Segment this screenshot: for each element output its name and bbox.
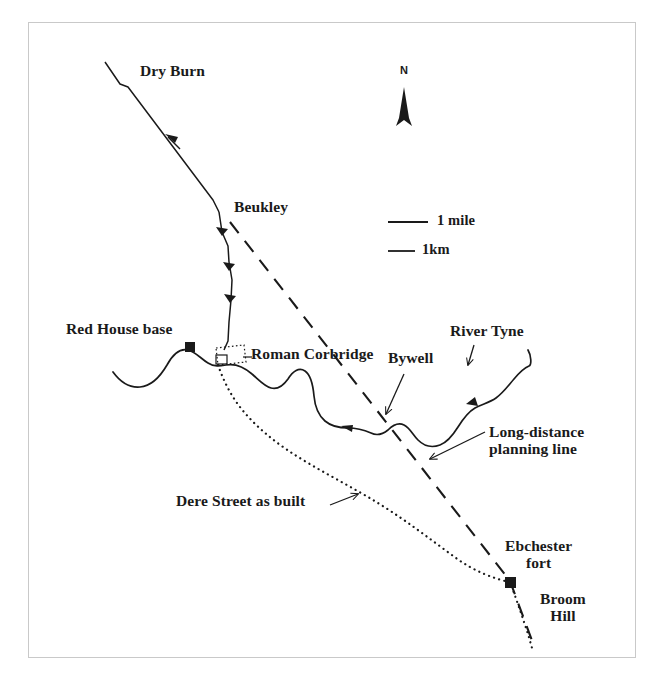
dry-burn-road-upper bbox=[105, 62, 219, 212]
river-flow-arrow-east bbox=[466, 397, 478, 406]
label-scale-mile: 1 mile bbox=[437, 212, 475, 228]
label-dere-street-as-built: Dere Street as built bbox=[176, 492, 305, 509]
label-broom-hill-row1: Broom bbox=[540, 590, 586, 607]
roman-corbridge-inner-block bbox=[216, 355, 227, 364]
map-figure: Dry Burn Beukley Red House base Roman Co… bbox=[0, 0, 659, 674]
road-arrow-beukley bbox=[216, 227, 228, 236]
dere-street-leader bbox=[330, 494, 358, 505]
label-dry-burn: Dry Burn bbox=[140, 62, 205, 79]
callout-leaders bbox=[243, 345, 485, 505]
dry-burn-road-feature bbox=[105, 62, 236, 350]
dere-street-built-course bbox=[218, 365, 510, 582]
label-long-distance-planning-line-row1: Long-distance bbox=[489, 423, 584, 440]
label-broom-hill: Broom Hill bbox=[540, 590, 586, 625]
label-red-house-base: Red House base bbox=[66, 320, 172, 337]
planning-line-main bbox=[230, 222, 510, 581]
roman-corbridge-enclosure-feature bbox=[216, 345, 246, 365]
label-long-distance-planning-line: Long-distance planning line bbox=[489, 423, 584, 458]
river-tyne-leader bbox=[468, 345, 474, 365]
site-markers bbox=[185, 342, 516, 588]
label-broom-hill-row2: Hill bbox=[540, 607, 586, 624]
label-roman-corbridge: Roman Corbridge bbox=[251, 345, 373, 362]
road-arrow-south bbox=[224, 294, 236, 303]
bywell-leader bbox=[386, 374, 404, 414]
road-arrow-mid bbox=[223, 262, 235, 271]
label-long-distance-planning-line-row2: planning line bbox=[489, 440, 584, 457]
label-bywell: Bywell bbox=[388, 349, 433, 366]
label-beukley: Beukley bbox=[234, 198, 288, 215]
red-house-base-marker bbox=[185, 342, 195, 352]
label-north: N bbox=[400, 64, 408, 76]
label-scale-km: 1km bbox=[422, 241, 450, 257]
ebchester-fort-marker bbox=[505, 577, 516, 588]
dere-street-built-tail bbox=[510, 582, 532, 648]
north-arrow-icon bbox=[396, 87, 412, 126]
label-river-tyne: River Tyne bbox=[450, 322, 524, 339]
label-ebchester-fort-row1: Ebchester bbox=[505, 537, 572, 554]
label-ebchester-fort-row2: fort bbox=[505, 554, 572, 571]
label-ebchester-fort: Ebchester fort bbox=[505, 537, 572, 572]
north-arrow-glyph bbox=[396, 87, 412, 126]
